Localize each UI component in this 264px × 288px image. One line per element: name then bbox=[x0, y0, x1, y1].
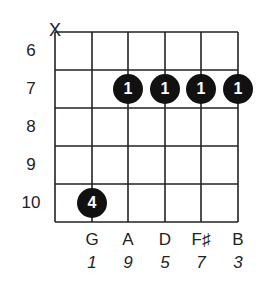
interval-label: 3 bbox=[226, 253, 250, 273]
fret-number-label: 10 bbox=[16, 193, 46, 213]
note-label: B bbox=[226, 230, 250, 250]
finger-number: 1 bbox=[124, 80, 133, 98]
fret-number-label: 7 bbox=[16, 79, 46, 99]
note-label: D bbox=[153, 230, 177, 250]
interval-label: 9 bbox=[116, 253, 140, 273]
interval-label: 1 bbox=[80, 253, 104, 273]
note-label: A bbox=[116, 230, 140, 250]
note-label: F♯ bbox=[189, 230, 213, 250]
chord-diagram: X 6 7 8 9 10 1 1 1 1 4 G A D F♯ B 1 9 5 … bbox=[0, 0, 264, 288]
interval-label: 7 bbox=[189, 253, 213, 273]
finger-number: 4 bbox=[88, 194, 97, 212]
note-label: G bbox=[80, 230, 104, 250]
muted-string-x-icon: X bbox=[49, 21, 61, 39]
finger-number: 1 bbox=[197, 80, 206, 98]
interval-label: 5 bbox=[153, 253, 177, 273]
fret-number-label: 8 bbox=[16, 117, 46, 137]
finger-dot: 1 bbox=[113, 74, 143, 104]
finger-number: 1 bbox=[234, 80, 243, 98]
finger-number: 1 bbox=[161, 80, 170, 98]
finger-dot: 1 bbox=[223, 74, 253, 104]
fret-number-label: 9 bbox=[16, 155, 46, 175]
finger-dot: 1 bbox=[150, 74, 180, 104]
finger-dot: 1 bbox=[186, 74, 216, 104]
fret-number-label: 6 bbox=[16, 41, 46, 61]
finger-dot: 4 bbox=[77, 188, 107, 218]
